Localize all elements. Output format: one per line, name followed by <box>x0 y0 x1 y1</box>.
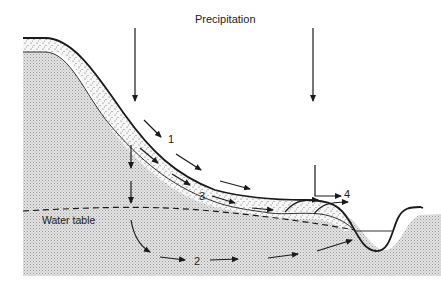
overland-flow-arrow-a <box>144 120 161 137</box>
overland-flow-arrow-c <box>220 181 250 189</box>
bedrock-layer <box>23 52 441 276</box>
flow-label-3: 3 <box>199 190 205 202</box>
hillslope-hydrology-diagram: Precipitation Water table 1 2 3 4 <box>0 0 441 305</box>
flow-label-4: 4 <box>344 188 350 200</box>
precipitation-label: Precipitation <box>195 13 256 25</box>
water-table-label: Water table <box>42 214 95 226</box>
flow-label-1: 1 <box>168 133 174 145</box>
overland-flow-arrow-b <box>176 154 201 170</box>
flow-label-2: 2 <box>194 255 200 267</box>
saturation-flow-arrow <box>315 165 341 196</box>
